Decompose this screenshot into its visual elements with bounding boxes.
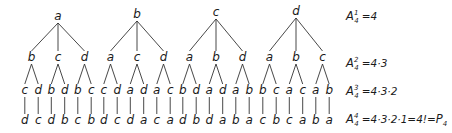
tree-leaf-node: a bbox=[167, 113, 174, 127]
formula-rhs: =4·3·2·1=4!= bbox=[362, 113, 436, 125]
formula-sub: 4 bbox=[354, 64, 358, 72]
formula-rhs: =4 bbox=[362, 10, 377, 22]
tree-edge bbox=[137, 21, 164, 51]
tree-edge bbox=[263, 64, 270, 84]
tree-level3-node: c bbox=[100, 83, 107, 97]
formula-p-sub: 4 bbox=[443, 120, 447, 128]
tree-level3-node: d bbox=[219, 83, 227, 97]
tree-leaf-node: d bbox=[100, 113, 108, 127]
tree-edge bbox=[85, 64, 92, 84]
tree-leaf-node: d bbox=[205, 113, 213, 127]
tree-edge bbox=[32, 23, 59, 51]
tree-level3-node: b bbox=[259, 83, 267, 97]
formula-rhs: =4·3 bbox=[362, 57, 388, 69]
tree-edge bbox=[51, 64, 58, 84]
tree-edge bbox=[130, 64, 137, 84]
formula-level-3: A34=4·3·2 bbox=[346, 86, 397, 98]
formula-sup: 4 bbox=[354, 112, 358, 120]
formula-sub: 4 bbox=[354, 120, 358, 128]
tree-edge bbox=[236, 64, 243, 84]
tree-level3-node: b bbox=[245, 83, 253, 97]
tree-leaf-node: c bbox=[74, 113, 81, 127]
tree-leaf-node: d bbox=[21, 113, 29, 127]
formula-sup: 2 bbox=[354, 56, 358, 64]
tree-level3-node: d bbox=[113, 83, 121, 97]
tree-level2-node: a bbox=[266, 50, 273, 64]
tree-level2-node: b bbox=[28, 50, 36, 64]
tree-edge bbox=[216, 19, 243, 51]
tree-edge bbox=[190, 19, 217, 51]
tree-leaf-node: c bbox=[286, 113, 293, 127]
tree-level2-node: d bbox=[160, 50, 168, 64]
tree-edge bbox=[190, 64, 197, 84]
tree-edge bbox=[78, 64, 85, 84]
tree-level3-node: d bbox=[34, 83, 42, 97]
tree-leaf-node: c bbox=[259, 113, 266, 127]
tree-level3-node: c bbox=[167, 83, 174, 97]
tree-leaf-node: d bbox=[126, 113, 134, 127]
formula-level-4: A44=4·3·2·1=4!=P4 bbox=[346, 114, 447, 126]
tree-level3-node: a bbox=[153, 83, 160, 97]
formula-p: P bbox=[436, 112, 443, 126]
tree-edge bbox=[296, 64, 303, 84]
tree-edge bbox=[209, 64, 216, 84]
formula-sup: 1 bbox=[354, 9, 358, 17]
tree-leaf-node: c bbox=[153, 113, 160, 127]
tree-level3-node: a bbox=[286, 83, 293, 97]
tree-level3-node: c bbox=[88, 83, 95, 97]
tree-edge bbox=[316, 64, 323, 84]
tree-level3-node: d bbox=[192, 83, 200, 97]
formula-level-2: A24=4·3 bbox=[346, 58, 387, 70]
formula-base: A bbox=[346, 84, 354, 98]
tree-root-node: d bbox=[292, 4, 300, 18]
formula-level-1: A14=4 bbox=[346, 11, 377, 23]
tree-edge bbox=[111, 64, 118, 84]
formula-sub: 4 bbox=[354, 17, 358, 25]
tree-root-node: b bbox=[133, 7, 141, 21]
tree-edge bbox=[111, 21, 138, 51]
tree-level2-node: c bbox=[319, 50, 326, 64]
formula-sub: 4 bbox=[354, 92, 358, 100]
tree-edge bbox=[32, 64, 39, 84]
tree-leaf-node: b bbox=[272, 113, 280, 127]
tree-level3-node: c bbox=[21, 83, 28, 97]
tree-level3-node: a bbox=[206, 83, 213, 97]
formula-rhs: =4·3·2 bbox=[362, 85, 398, 97]
formula-base: A bbox=[346, 112, 354, 126]
tree-leaf-node: a bbox=[219, 113, 226, 127]
tree-leaf-node: b bbox=[61, 113, 69, 127]
tree-edge bbox=[25, 64, 32, 84]
tree-level2-node: d bbox=[239, 50, 247, 64]
tree-level3-node: c bbox=[299, 83, 306, 97]
tree-leaf-node: a bbox=[140, 113, 147, 127]
formula-base: A bbox=[346, 9, 354, 23]
tree-level2-node: a bbox=[107, 50, 114, 64]
tree-leaf-node: d bbox=[179, 113, 187, 127]
tree-edge bbox=[216, 64, 223, 84]
tree-edge bbox=[270, 64, 277, 84]
tree-edge bbox=[183, 64, 190, 84]
tree-edge bbox=[104, 64, 111, 84]
tree-level2-node: b bbox=[212, 50, 220, 64]
tree-leaf-node: b bbox=[232, 113, 240, 127]
tree-level3-node: a bbox=[127, 83, 134, 97]
tree-edge bbox=[323, 64, 330, 84]
tree-edge bbox=[296, 18, 323, 51]
tree-level3-node: b bbox=[47, 83, 55, 97]
tree-leaf-node: c bbox=[114, 113, 121, 127]
tree-level3-node: d bbox=[140, 83, 148, 97]
tree-level2-node: c bbox=[134, 50, 141, 64]
tree-level2-node: b bbox=[292, 50, 300, 64]
tree-level3-node: b bbox=[325, 83, 333, 97]
tree-leaf-node: a bbox=[326, 113, 333, 127]
tree-level3-node: a bbox=[312, 83, 319, 97]
tree-root-node: a bbox=[54, 9, 61, 23]
tree-level2-node: c bbox=[55, 50, 62, 64]
tree-leaf-node: a bbox=[299, 113, 306, 127]
formula-base: A bbox=[346, 56, 354, 70]
tree-edge bbox=[270, 18, 297, 51]
tree-level3-node: b bbox=[179, 83, 187, 97]
tree-edge bbox=[243, 64, 250, 84]
tree-leaf-node: b bbox=[312, 113, 320, 127]
tree-edge bbox=[157, 64, 164, 84]
